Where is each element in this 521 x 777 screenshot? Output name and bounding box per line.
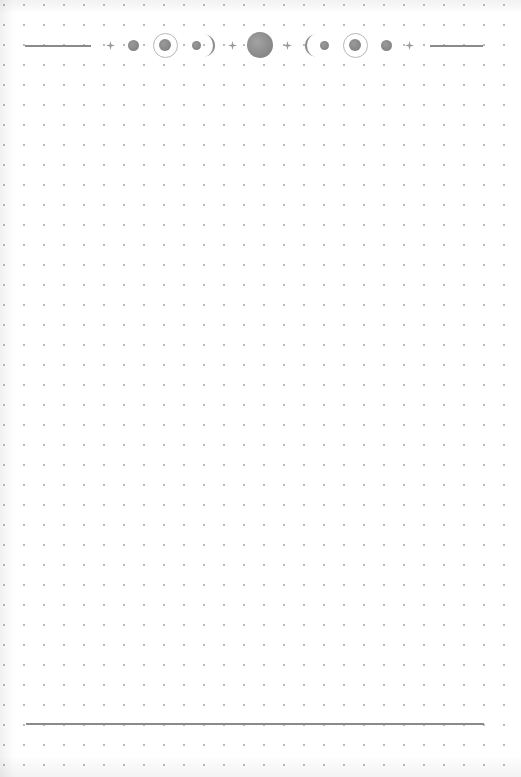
ringed-moon-icon xyxy=(343,33,368,58)
page-edge-shadow-top xyxy=(0,0,521,14)
header-right-rule xyxy=(430,45,483,47)
sparkle-icon xyxy=(283,41,292,50)
new-moon-icon xyxy=(128,40,139,51)
small-moon-icon xyxy=(320,41,329,50)
new-moon-icon xyxy=(381,40,392,51)
full-moon-icon xyxy=(247,32,273,58)
sparkle-icon xyxy=(106,41,115,50)
dot-grid-page xyxy=(0,0,521,777)
footer-rule xyxy=(26,723,484,725)
waxing-crescent-icon xyxy=(303,34,317,57)
small-moon-icon xyxy=(192,41,201,50)
header-left-rule xyxy=(25,45,91,47)
page-edge-shadow-bottom xyxy=(0,755,521,777)
page-edge-shadow xyxy=(0,0,14,777)
waning-crescent-icon xyxy=(203,34,217,57)
sparkle-icon xyxy=(228,41,237,50)
ringed-moon-icon xyxy=(153,33,178,58)
sparkle-icon xyxy=(405,41,414,50)
